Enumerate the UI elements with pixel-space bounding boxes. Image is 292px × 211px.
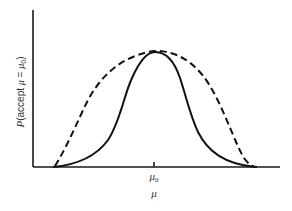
dashed-curve xyxy=(55,51,257,167)
oc-curve-chart: P(accept μ = μ0) μ0 μ xyxy=(0,0,292,211)
y-axis-label: P(accept μ = μ0) xyxy=(14,56,27,128)
x-axis-label: μ xyxy=(150,187,157,199)
solid-curve xyxy=(53,52,255,167)
x-tick-label-mu0: μ0 xyxy=(148,170,159,184)
